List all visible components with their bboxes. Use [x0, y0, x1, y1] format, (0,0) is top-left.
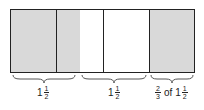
segment-1-shaded	[11, 10, 57, 72]
fraction: 12	[115, 85, 121, 100]
brace-1-icon	[12, 74, 76, 84]
prefix-fraction: 23	[155, 85, 161, 100]
divider-3	[149, 10, 150, 72]
brace-2-icon	[81, 74, 147, 84]
label-group-1: 1 12	[37, 85, 49, 100]
brace-3-icon	[150, 74, 194, 84]
of-word: of	[164, 87, 172, 98]
divider-1	[56, 10, 57, 72]
segment-3-unshaded	[80, 10, 104, 72]
fraction-bar	[10, 9, 195, 73]
whole-number: 1	[37, 87, 43, 98]
label-group-2: 1 12	[108, 85, 120, 100]
fraction: 12	[44, 85, 50, 100]
segment-4-unshaded	[104, 10, 150, 72]
label-group-3: 23 of 1 12	[154, 85, 188, 100]
divider-2	[103, 10, 104, 72]
segment-5-shaded	[150, 10, 194, 72]
fraction: 12	[182, 85, 188, 100]
whole-number: 1	[175, 87, 181, 98]
segment-2-shaded	[57, 10, 80, 72]
whole-number: 1	[108, 87, 114, 98]
